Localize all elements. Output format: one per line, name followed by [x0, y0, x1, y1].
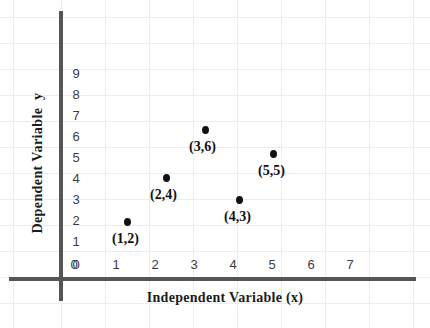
data-point-label-4-3: (4,3)	[224, 209, 251, 225]
y-tick-label-2: 2	[68, 214, 84, 227]
data-point-2-4	[163, 174, 170, 182]
data-point-label-2-4: (2,4)	[150, 187, 177, 203]
y-tick-label-3: 3	[68, 193, 84, 206]
x-tick-label-4: 4	[225, 258, 241, 271]
y-tick-label-1: 1	[68, 235, 84, 248]
x-tick-label-0: 0	[66, 258, 82, 271]
x-tick-label-1: 1	[108, 258, 124, 271]
x-tick-label-2: 2	[147, 258, 163, 271]
data-point-label-5-5: (5,5)	[258, 163, 285, 179]
y-tick-label-4: 4	[68, 172, 84, 185]
y-axis-line	[59, 11, 63, 301]
x-tick-label-6: 6	[303, 258, 319, 271]
y-tick-label-9: 9	[68, 67, 84, 80]
data-point-1-2	[124, 218, 131, 226]
y-tick-label-8: 8	[68, 88, 84, 101]
x-tick-label-3: 3	[186, 258, 202, 271]
data-point-3-6	[202, 126, 209, 134]
y-axis-title: Dependent Variable y	[30, 63, 46, 263]
x-axis-title: Independent Variable (x)	[60, 290, 390, 306]
x-tick-label-7: 7	[342, 258, 358, 271]
x-axis-line	[9, 277, 416, 281]
scatter-plot-figure: 9 8 7 6 5 4 3 2 1 0 0 1 2 3 4 5 6 7 Depe…	[0, 0, 430, 328]
data-point-4-3	[236, 196, 243, 204]
y-tick-label-5: 5	[68, 151, 84, 164]
y-tick-label-6: 6	[68, 130, 84, 143]
data-point-label-3-6: (3,6)	[189, 139, 216, 155]
y-tick-label-7: 7	[68, 109, 84, 122]
data-point-5-5	[270, 150, 277, 158]
data-point-label-1-2: (1,2)	[112, 231, 139, 247]
x-tick-label-5: 5	[264, 258, 280, 271]
